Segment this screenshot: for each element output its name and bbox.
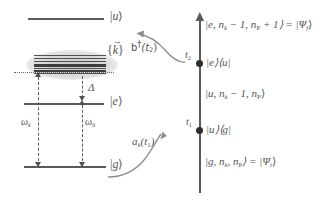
intermediate-state-text-3: ⟩ [261, 87, 265, 99]
intermediate-state-text-2: − 1, n [228, 87, 257, 99]
initial-state-text-3: ⟩ = |Ψ [242, 155, 270, 167]
interaction-node-t2[interactable] [196, 60, 203, 67]
intermediate-state-text-1: |u, n [205, 87, 225, 99]
final-state-text-2: − 1, n [227, 18, 256, 30]
operator-t2-label: |e⟩⟨u| [206, 57, 230, 68]
initial-state-text-2: , n [228, 155, 239, 167]
b-arg-open: (t [141, 42, 149, 53]
operator-t2-text: |e⟩⟨u| [206, 56, 230, 68]
annihilation-operator-label: ak(t1) [132, 136, 154, 149]
t2-subscript: 2 [188, 54, 191, 61]
time-label-t2: t2 [185, 50, 191, 61]
initial-state-text-1: |g, n [205, 155, 225, 167]
creation-operator-label: b†(t2) [131, 41, 157, 54]
creation-operator-arrowhead-icon [137, 30, 145, 37]
time-label-t1: t1 [186, 117, 192, 128]
annihilation-operator-arrowhead-icon [160, 132, 167, 140]
final-state-text-4: ⟩ [308, 18, 312, 30]
time-axis-arrowhead-icon [196, 12, 204, 21]
final-state-text-1: |e, n [205, 18, 224, 30]
operator-t1-text: |u⟩⟨g| [206, 123, 231, 135]
initial-state-ket: |g, nk, nP⟩ = |Ψi⟩ [205, 156, 276, 169]
t1-subscript: 1 [189, 121, 192, 128]
final-state-ket: |e, nk − 1, nP + 1⟩ = |Ψf⟩ [205, 19, 312, 32]
operator-t1-label: |u⟩⟨g| [206, 124, 231, 135]
a-arg-close: ) [151, 135, 155, 147]
initial-state-text-4: ⟩ [272, 155, 276, 167]
intermediate-state-ket: |u, nk − 1, nP⟩ [205, 88, 265, 101]
final-state-text-3: + 1⟩ = |Ψ [260, 18, 306, 30]
figure-canvas: |u⟩ {→k} |e⟩ |g⟩ ωk ω0 Δ [0, 0, 334, 202]
interaction-node-t1[interactable] [196, 127, 203, 134]
b-arg-close: ) [153, 42, 157, 53]
